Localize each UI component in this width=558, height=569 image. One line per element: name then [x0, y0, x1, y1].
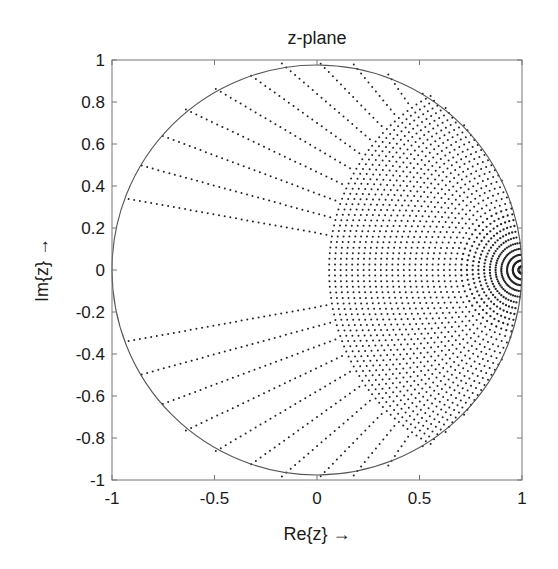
x-tick-label: 1 [517, 489, 526, 508]
x-tick-label: -1 [104, 489, 119, 508]
y-tick-label: 0 [96, 261, 105, 280]
y-tick-label: 0.2 [81, 219, 105, 238]
x-tick-label: 0 [312, 489, 321, 508]
y-tick-label: 0.8 [81, 93, 105, 112]
y-axis-label: Im{z} → [32, 238, 52, 302]
y-tick-label: 0.6 [81, 135, 105, 154]
y-tick-label: -0.4 [76, 345, 105, 364]
x-axis-label: Re{z} → [283, 524, 350, 544]
y-tick-label: -0.6 [76, 387, 105, 406]
x-tick-label: 0.5 [408, 489, 432, 508]
chart-title: z-plane [287, 28, 346, 48]
z-plane-chart: -1-0.500.51-1-0.8-0.6-0.4-0.200.20.40.60… [0, 0, 558, 569]
data-points [128, 63, 523, 478]
y-tick-label: -0.8 [76, 429, 105, 448]
axis-ticks: -1-0.500.51-1-0.8-0.6-0.4-0.200.20.40.60… [76, 51, 527, 508]
y-tick-label: 0.4 [81, 177, 105, 196]
y-tick-label: 1 [96, 51, 105, 70]
x-tick-label: -0.5 [200, 489, 229, 508]
y-tick-label: -1 [90, 471, 105, 490]
y-tick-label: -0.2 [76, 303, 105, 322]
